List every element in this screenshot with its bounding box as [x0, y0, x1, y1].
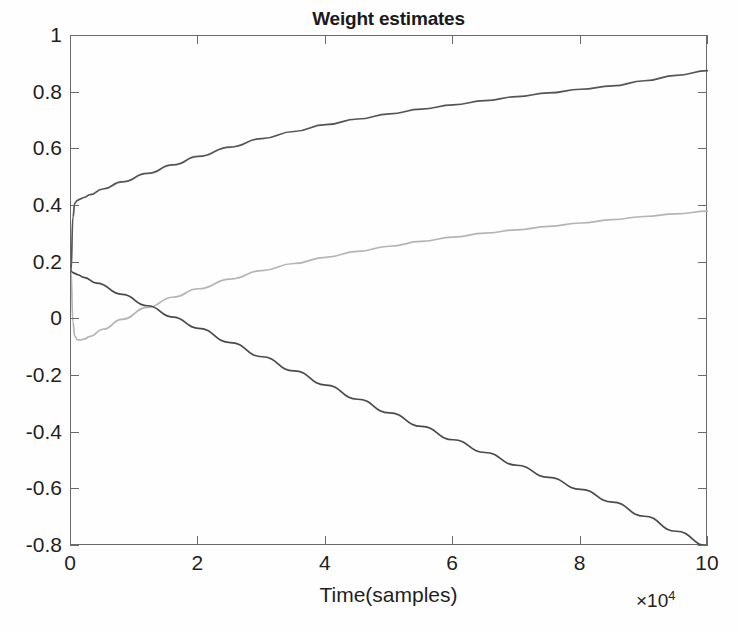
- figure-canvas: Weight estimates 10.80.60.40.20-0.2-0.4-…: [0, 0, 738, 632]
- x-tick-mark: [70, 35, 71, 44]
- plot-svg: [71, 36, 708, 546]
- x-tick-mark: [70, 536, 71, 545]
- x-axis-label: Time(samples): [70, 583, 707, 607]
- y-tick-label: -0.4: [0, 420, 62, 444]
- x-tick-mark: [452, 536, 453, 545]
- y-tick-mark: [698, 318, 707, 319]
- y-tick-label: -0.2: [0, 363, 62, 387]
- y-tick-label: 0.4: [0, 193, 62, 217]
- y-tick-mark: [70, 318, 79, 319]
- y-tick-mark: [70, 488, 79, 489]
- y-tick-mark: [698, 488, 707, 489]
- y-tick-mark: [70, 35, 79, 36]
- y-tick-mark: [698, 148, 707, 149]
- x-tick-mark: [325, 35, 326, 44]
- y-tick-mark: [698, 545, 707, 546]
- y-tick-mark: [698, 35, 707, 36]
- series-line-weight-1: [71, 71, 708, 272]
- y-tick-label: 0.6: [0, 136, 62, 160]
- x-tick-mark: [452, 35, 453, 44]
- y-tick-mark: [698, 205, 707, 206]
- x-tick-mark: [325, 536, 326, 545]
- y-tick-mark: [698, 375, 707, 376]
- y-tick-mark: [70, 545, 79, 546]
- y-tick-mark: [70, 92, 79, 93]
- chart-title: Weight estimates: [70, 8, 707, 30]
- y-tick-mark: [70, 262, 79, 263]
- y-tick-mark: [70, 205, 79, 206]
- x-axis-exponent-base: ×10: [636, 590, 668, 611]
- y-tick-label: 0.2: [0, 250, 62, 274]
- y-tick-label: -0.6: [0, 476, 62, 500]
- y-tick-mark: [70, 375, 79, 376]
- y-tick-mark: [70, 432, 79, 433]
- x-tick-label: 8: [545, 551, 615, 575]
- x-axis-exponent: ×104: [636, 588, 675, 612]
- x-tick-label: 4: [290, 551, 360, 575]
- x-tick-label: 10: [672, 551, 738, 575]
- series-line-weight-3: [71, 271, 708, 546]
- x-tick-label: 6: [417, 551, 487, 575]
- x-tick-mark: [580, 536, 581, 545]
- x-axis-exponent-power: 4: [668, 588, 675, 603]
- y-tick-mark: [698, 262, 707, 263]
- x-tick-mark: [197, 536, 198, 545]
- x-tick-mark: [707, 35, 708, 44]
- x-tick-mark: [197, 35, 198, 44]
- y-tick-label: 1: [0, 23, 62, 47]
- x-tick-label: 2: [162, 551, 232, 575]
- y-tick-mark: [698, 92, 707, 93]
- y-tick-label: 0: [0, 306, 62, 330]
- y-tick-mark: [698, 432, 707, 433]
- x-tick-label: 0: [35, 551, 105, 575]
- series-layer: [71, 71, 708, 546]
- plot-area[interactable]: [70, 35, 707, 545]
- series-line-weight-2: [71, 211, 708, 340]
- x-tick-mark: [580, 35, 581, 44]
- y-tick-mark: [70, 148, 79, 149]
- y-tick-label: 0.8: [0, 80, 62, 104]
- x-tick-mark: [707, 536, 708, 545]
